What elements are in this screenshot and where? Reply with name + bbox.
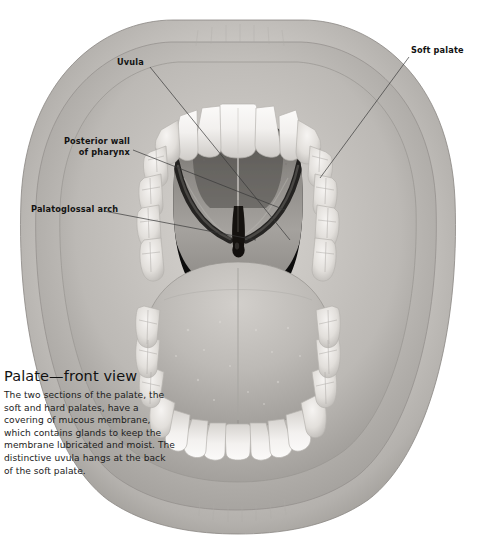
caption-block: Palate—front view The two sections of th… (4, 368, 176, 477)
caption-title: Palate—front view (4, 368, 176, 384)
label-uvula: Uvula (117, 57, 144, 68)
label-posterior-wall-of-pharynx: Posterior wall of pharynx (60, 136, 130, 158)
caption-body: The two sections of the palate, the soft… (4, 389, 176, 477)
uvula-shape (232, 206, 245, 257)
label-palatoglossal-arch: Palatoglossal arch (31, 204, 118, 215)
label-soft-palate: Soft palate (411, 45, 464, 56)
